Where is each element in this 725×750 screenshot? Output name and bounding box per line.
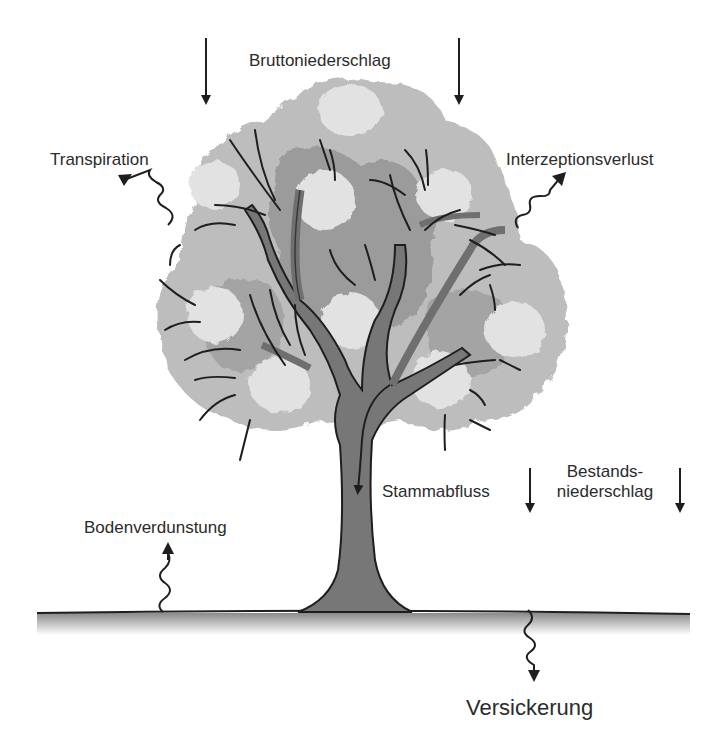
label-throughfall-line1: Bestands-: [546, 462, 664, 482]
canopy-highlight: [187, 287, 243, 343]
label-stemflow: Stammabfluss: [382, 482, 490, 502]
arrowhead-icon: [162, 542, 174, 554]
transpiration-arrow-icon: [124, 170, 173, 225]
water-balance-diagram: Bruttoniederschlag Transpiration Interze…: [0, 0, 725, 750]
diagram-canvas: [0, 0, 725, 750]
canopy-highlight: [189, 161, 241, 209]
interception-arrow-icon: [516, 178, 560, 228]
label-soil-evaporation: Bodenverdunstung: [84, 518, 227, 538]
arrowhead-icon: [528, 670, 540, 682]
soil-evaporation-arrow-icon: [159, 552, 170, 612]
arrowhead-icon: [118, 174, 132, 186]
label-throughfall: Bestands- niederschlag: [546, 462, 664, 501]
label-percolation: Versickerung: [466, 695, 593, 720]
label-transpiration: Transpiration: [50, 150, 149, 170]
canopy-highlight: [295, 170, 355, 230]
label-gross-precipitation: Bruttoniederschlag: [249, 51, 391, 71]
label-throughfall-line2: niederschlag: [546, 482, 664, 502]
label-interception-loss: Interzeptionsverlust: [506, 150, 653, 170]
ground-shadow: [37, 613, 690, 635]
canopy-highlight: [318, 84, 382, 136]
ground: [37, 611, 690, 635]
canopy-highlight: [485, 302, 545, 358]
